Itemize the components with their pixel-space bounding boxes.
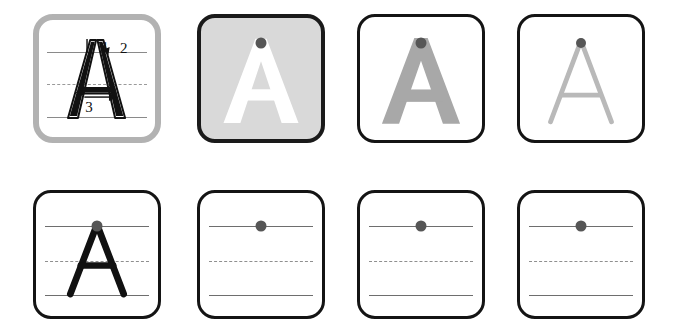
- panel-practice-blank-2[interactable]: [357, 190, 485, 319]
- guideline-middle: [209, 261, 314, 262]
- guideline-bottom: [209, 295, 314, 296]
- letter-a-stroke-diagram: [39, 20, 155, 137]
- panel-practice-blank-1[interactable]: [197, 190, 325, 319]
- panel-inner: [200, 193, 322, 316]
- panel-practice-blank-3[interactable]: [517, 190, 645, 319]
- panel-inner: [520, 193, 642, 316]
- panel-gray-trace[interactable]: [357, 14, 485, 143]
- panel-inner: [520, 17, 642, 140]
- panel-inner: 1 2 3: [39, 20, 155, 137]
- panel-model-on-lines[interactable]: [33, 190, 161, 319]
- start-dot: [256, 38, 267, 49]
- stroke-number-1: 1: [101, 39, 109, 54]
- letter-a-glyph-white: [201, 18, 321, 139]
- start-dot: [416, 221, 427, 232]
- panel-inner: [36, 193, 158, 316]
- stroke-number-3: 3: [85, 99, 93, 114]
- guideline-middle: [369, 261, 474, 262]
- panel-inner: [360, 17, 482, 140]
- start-dot: [416, 37, 427, 48]
- start-dot: [256, 221, 267, 232]
- start-dot: [576, 38, 586, 48]
- letter-a-glyph-light: [520, 17, 642, 140]
- panel-inner: [360, 193, 482, 316]
- guideline-middle: [529, 261, 634, 262]
- start-dot: [576, 221, 587, 232]
- stroke-number-2: 2: [120, 41, 128, 56]
- letter-a-glyph-black: [36, 193, 158, 316]
- handwriting-worksheet: 1 2 3: [0, 0, 690, 333]
- letter-a-glyph-gray: [360, 17, 482, 140]
- panel-shaded-trace[interactable]: [197, 14, 325, 143]
- panel-inner: [201, 18, 321, 139]
- panel-stroke-order-demo[interactable]: 1 2 3: [33, 14, 161, 143]
- guideline-bottom: [529, 295, 634, 296]
- guideline-bottom: [369, 295, 474, 296]
- panel-light-trace[interactable]: [517, 14, 645, 143]
- start-dot: [92, 221, 103, 232]
